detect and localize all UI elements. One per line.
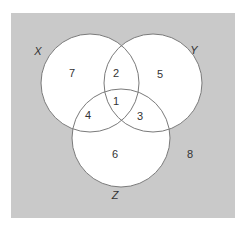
region-value-y-and-z-only: 3: [137, 110, 143, 122]
set-label-x: X: [33, 45, 42, 57]
region-value-x-y-z: 1: [113, 95, 119, 107]
region-value-y-only: 5: [157, 68, 163, 80]
region-value-z-only: 6: [112, 148, 118, 160]
set-label-z: Z: [111, 189, 120, 201]
region-value-outside: 8: [187, 148, 193, 160]
set-label-y: Y: [190, 44, 198, 56]
region-value-x-only: 7: [69, 67, 75, 79]
region-value-x-and-y-only: 2: [113, 67, 119, 79]
region-value-x-and-z-only: 4: [85, 109, 91, 121]
venn-diagram: XYZ 72514368: [0, 0, 246, 229]
